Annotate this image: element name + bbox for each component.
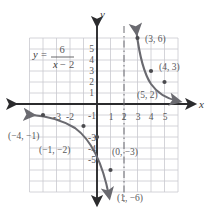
x-tick-1: 1	[109, 112, 114, 122]
point-label-1-m6: (1, −6)	[117, 193, 143, 204]
equation-lhs: y	[32, 49, 38, 60]
point-m1-m2	[81, 124, 85, 128]
x-tick-4: 4	[149, 112, 154, 122]
x-tick-neg3: -3	[53, 112, 61, 122]
point-label-4-3: (4, 3)	[159, 62, 180, 73]
y-tick-4: 4	[89, 55, 94, 65]
x-tick-2: 2	[122, 112, 127, 122]
point-label-0-m3: (0, −3)	[112, 147, 138, 158]
x-tick-labels: -3 -2 1 2 3 4 5	[53, 112, 168, 122]
point-label-m1-m2: (−1, −2)	[39, 145, 70, 156]
point-1-m6	[108, 168, 112, 172]
equation-numerator: 6	[59, 44, 64, 55]
point-3-6	[135, 36, 139, 40]
y-tick-2: 2	[89, 77, 94, 87]
grid-lines	[30, 38, 179, 192]
equation-denominator-minus: −	[60, 59, 66, 70]
x-tick-3: 3	[136, 112, 141, 122]
x-axis-label: x	[198, 98, 204, 110]
point-m4-m1	[41, 113, 45, 117]
x-tick-5: 5	[163, 112, 168, 122]
equation-label: y = 6 x − 2	[32, 44, 74, 70]
y-axis-label: y	[99, 8, 105, 20]
y-tick-3: 3	[89, 66, 94, 76]
y-tick-1: 1	[89, 88, 94, 98]
equation-equals: =	[41, 49, 47, 60]
y-tick-5: 5	[89, 44, 94, 54]
graph-figure: y x 5 4 3 2 1 -1 -3 -4 -5 -3 -2 1 2 3 4 …	[0, 0, 218, 210]
equation-denominator-var: x	[52, 59, 58, 70]
y-tick-neg5: -5	[88, 155, 96, 165]
y-tick-neg3: -3	[88, 133, 96, 143]
coordinate-plane-svg: y x 5 4 3 2 1 -1 -3 -4 -5 -3 -2 1 2 3 4 …	[0, 0, 218, 210]
point-5-2	[162, 80, 166, 84]
point-label-5-2: (5, 2)	[137, 90, 158, 101]
y-tick-neg1: -1	[88, 111, 96, 121]
x-tick-neg2: -2	[66, 112, 74, 122]
point-label-m4-m1: (−4, −1)	[8, 131, 39, 142]
equation-denominator-const: 2	[69, 59, 74, 70]
y-tick-neg4: -4	[88, 144, 96, 154]
point-label-3-6: (3, 6)	[145, 34, 166, 45]
point-4-3	[149, 69, 153, 73]
